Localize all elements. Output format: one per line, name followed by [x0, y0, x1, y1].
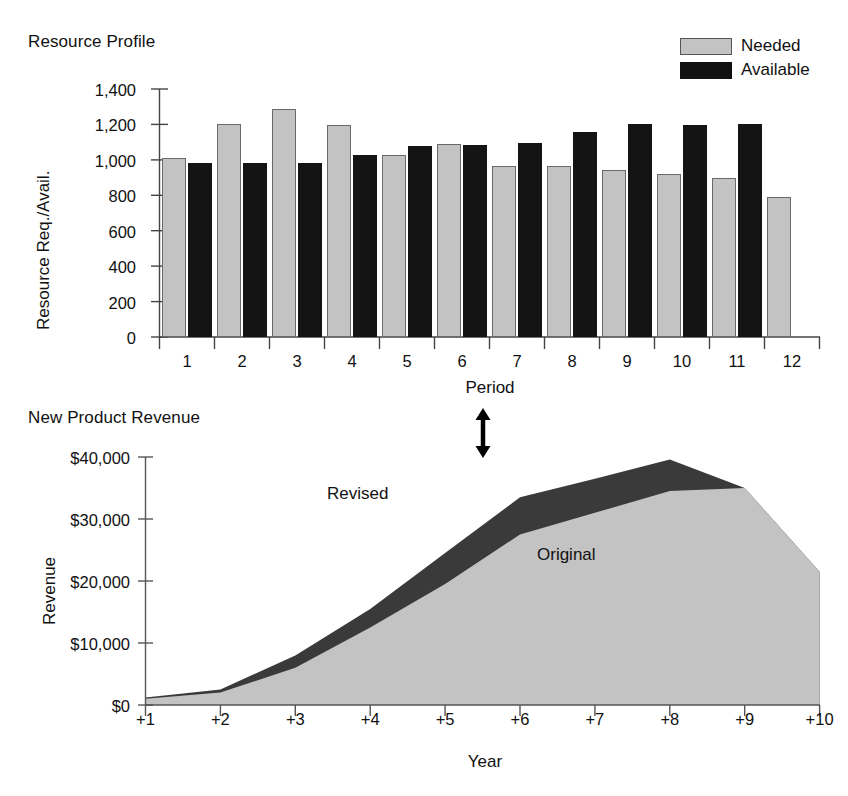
bar-available-period-7: [518, 143, 542, 337]
bottom-xtick-plus5: +5: [420, 710, 470, 729]
top-xtick-11: 11: [717, 352, 757, 371]
bar-needed-period-11: [712, 178, 736, 337]
bar-needed-period-8: [547, 166, 571, 337]
top-xtick-4: 4: [332, 352, 372, 371]
bar-needed-period-6: [437, 144, 461, 337]
legend-item-available: Available: [680, 60, 840, 80]
bottom-ytick-10000: $10,000: [28, 635, 130, 654]
top-xtick-5: 5: [387, 352, 427, 371]
top-ytick-1200: 1,200: [60, 116, 136, 135]
legend-label-needed: Needed: [741, 36, 801, 56]
bar-available-period-4: [353, 155, 377, 337]
bar-needed-period-7: [492, 166, 516, 337]
top-ytick-800: 800: [60, 187, 136, 206]
top-ytick-1000: 1,000: [60, 152, 136, 171]
bar-available-period-3: [298, 163, 322, 337]
top-ytick-400: 400: [60, 258, 136, 277]
area-label-original: Original: [537, 545, 596, 565]
top-xtick-1: 1: [167, 352, 207, 371]
top-chart-y-axis-label: Resource Req./Avail.: [34, 171, 54, 330]
area-original: [146, 488, 820, 705]
bottom-xtick-plus10: +10: [795, 710, 845, 729]
top-ytick-1400: 1,400: [60, 81, 136, 100]
bar-available-period-6: [463, 145, 487, 337]
bottom-xtick-plus9: +9: [720, 710, 770, 729]
bottom-chart-x-axis-label: Year: [425, 752, 545, 772]
top-chart-bars: [160, 89, 820, 337]
bar-needed-period-10: [657, 174, 681, 337]
bar-available-period-10: [683, 125, 707, 337]
bottom-ytick-40000: $40,000: [28, 449, 130, 468]
bottom-xtick-plus7: +7: [570, 710, 620, 729]
bar-needed-period-4: [327, 125, 351, 337]
top-xtick-10: 10: [662, 352, 702, 371]
bar-available-period-8: [573, 132, 597, 337]
top-ytick-600: 600: [60, 223, 136, 242]
legend-label-available: Available: [741, 60, 810, 80]
top-chart-title: Resource Profile: [28, 32, 155, 52]
bar-available-period-9: [628, 124, 652, 337]
bar-available-period-1: [188, 163, 212, 337]
bar-available-period-5: [408, 146, 432, 337]
bottom-chart-title: New Product Revenue: [28, 408, 200, 428]
legend-swatch-needed: [680, 38, 732, 55]
bottom-xtick-plus2: +2: [195, 710, 245, 729]
bottom-xtick-plus4: +4: [345, 710, 395, 729]
bottom-ytick-20000: $20,000: [28, 573, 130, 592]
area-label-revised: Revised: [327, 484, 388, 504]
bottom-chart-x-tick-labels: +1+2+3+4+5+6+7+8+9+10: [136, 710, 836, 734]
bar-needed-period-3: [272, 109, 296, 338]
bottom-chart-plot: [136, 450, 836, 725]
top-xtick-7: 7: [497, 352, 537, 371]
top-xtick-8: 8: [552, 352, 592, 371]
bar-available-period-11: [738, 124, 762, 337]
bar-needed-period-5: [382, 155, 406, 337]
bottom-xtick-plus6: +6: [495, 710, 545, 729]
top-chart-x-axis-label: Period: [430, 378, 550, 398]
bar-needed-period-2: [217, 124, 241, 337]
top-ytick-0: 0: [60, 329, 136, 348]
top-xtick-12: 12: [772, 352, 812, 371]
bar-needed-period-12: [767, 197, 791, 337]
bottom-ytick-30000: $30,000: [28, 511, 130, 530]
bar-needed-period-9: [602, 170, 626, 337]
top-xtick-3: 3: [277, 352, 317, 371]
top-xtick-9: 9: [607, 352, 647, 371]
figure-canvas: Resource Profile Needed Available Resour…: [0, 0, 848, 796]
top-chart-x-tick-labels: 123456789101112: [140, 352, 840, 376]
legend: Needed Available: [680, 36, 840, 80]
bottom-ytick-0: $0: [28, 697, 130, 716]
bar-available-period-2: [243, 163, 267, 337]
bar-needed-period-1: [162, 158, 186, 337]
legend-swatch-available: [680, 62, 732, 79]
bottom-xtick-plus8: +8: [645, 710, 695, 729]
top-xtick-6: 6: [442, 352, 482, 371]
legend-item-needed: Needed: [680, 36, 840, 56]
bottom-xtick-plus1: +1: [121, 710, 171, 729]
top-xtick-2: 2: [222, 352, 262, 371]
top-ytick-200: 200: [60, 294, 136, 313]
bottom-xtick-plus3: +3: [270, 710, 320, 729]
